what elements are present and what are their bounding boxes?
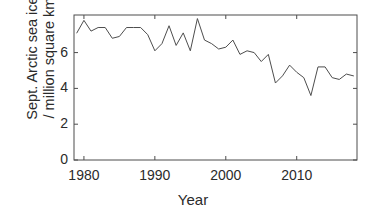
- x-tick-label-2000: 2000: [204, 167, 248, 183]
- x-tick-label-2010: 2010: [275, 167, 319, 183]
- y-axis-label-line-1: Sept. Arctic sea ice: [24, 0, 41, 120]
- chart-figure: Sept. Arctic sea ice / million square km…: [0, 0, 386, 215]
- sea-ice-data-line: [77, 19, 354, 96]
- x-tick-label-1990: 1990: [133, 167, 177, 183]
- y-tick-label-0: 0: [40, 151, 68, 167]
- x-tick-label-1980: 1980: [62, 167, 106, 183]
- y-tick-label-4: 4: [40, 79, 68, 95]
- x-axis-label: Year: [0, 191, 386, 208]
- y-axis-label-line-2: / million square km: [41, 0, 58, 120]
- y-tick-label-6: 6: [40, 44, 68, 60]
- y-tick-label-2: 2: [40, 115, 68, 131]
